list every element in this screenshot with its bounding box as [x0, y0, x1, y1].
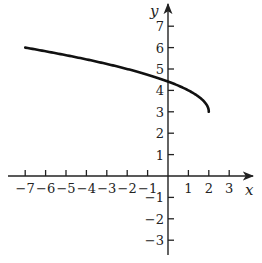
- function-curve: [25, 48, 209, 112]
- y-tick-label: 5: [156, 62, 164, 77]
- x-axis-label: x: [245, 181, 254, 199]
- y-tick-label: 7: [156, 19, 164, 34]
- function-graph: −7−6−5−4−3−2−1123 −3−2−11234567 x y: [0, 0, 262, 263]
- axes: [8, 4, 253, 255]
- x-tick-label: −7: [16, 181, 35, 196]
- x-tick-label: 2: [205, 181, 213, 196]
- y-tick-label: −1: [145, 190, 164, 205]
- y-tick-label: 6: [156, 41, 164, 56]
- x-tick-label: 3: [225, 181, 233, 196]
- x-tick-label: 1: [184, 181, 192, 196]
- y-ticks: −3−2−11234567: [145, 19, 174, 248]
- y-tick-label: 1: [156, 148, 164, 163]
- y-tick-label: 3: [156, 105, 164, 120]
- x-tick-label: −4: [77, 181, 96, 196]
- x-tick-label: −6: [36, 181, 55, 196]
- x-tick-label: −2: [118, 181, 137, 196]
- y-tick-label: 4: [156, 83, 164, 98]
- x-tick-label: −5: [56, 181, 75, 196]
- y-tick-label: −3: [145, 233, 164, 248]
- y-axis-label: y: [149, 2, 159, 20]
- x-tick-label: −3: [97, 181, 116, 196]
- y-tick-label: 2: [156, 126, 164, 141]
- x-ticks: −7−6−5−4−3−2−1123: [16, 170, 234, 196]
- y-tick-label: −2: [145, 212, 164, 227]
